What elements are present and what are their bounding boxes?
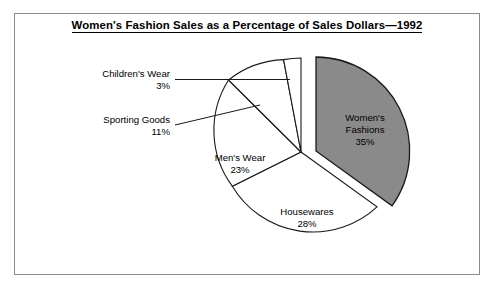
label-childrens-wear: Children's Wear 3% [58,68,170,92]
label-mens-wear: Men's Wear 23% [185,152,295,176]
label-womens-fashions-percent: 35% [325,136,405,148]
label-mens-wear-name: Men's Wear [185,152,295,164]
label-sporting-goods: Sporting Goods 11% [50,114,170,138]
label-housewares-name: Housewares [252,206,362,218]
label-childrens-wear-percent: 3% [58,80,170,92]
label-housewares-percent: 28% [252,218,362,230]
label-womens-fashions-line2: Fashions [325,124,405,136]
label-womens-fashions-line1: Women's [325,112,405,124]
pie-chart-canvas [0,0,494,287]
label-childrens-wear-name: Children's Wear [58,68,170,80]
label-sporting-goods-name: Sporting Goods [50,114,170,126]
label-sporting-goods-percent: 11% [50,126,170,138]
label-mens-wear-percent: 23% [185,164,295,176]
label-housewares: Housewares 28% [252,206,362,230]
label-womens-fashions: Women's Fashions 35% [325,112,405,147]
